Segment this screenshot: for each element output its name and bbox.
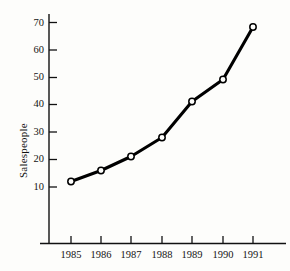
data-point-1989 [189, 98, 195, 104]
x-tick-marks [71, 236, 253, 244]
data-line-salespeople [71, 27, 253, 182]
chart-figure: Salespeople 70 60 50 40 30 20 10 1985 19… [0, 0, 290, 271]
data-point-1985 [68, 178, 74, 184]
data-markers [68, 24, 256, 185]
data-point-1987 [128, 153, 134, 159]
data-point-1990 [220, 76, 226, 82]
data-point-1986 [98, 167, 104, 173]
data-point-1988 [159, 134, 165, 140]
chart-plot-area [0, 0, 290, 271]
data-point-1991 [250, 24, 256, 30]
y-tick-marks [49, 23, 57, 188]
